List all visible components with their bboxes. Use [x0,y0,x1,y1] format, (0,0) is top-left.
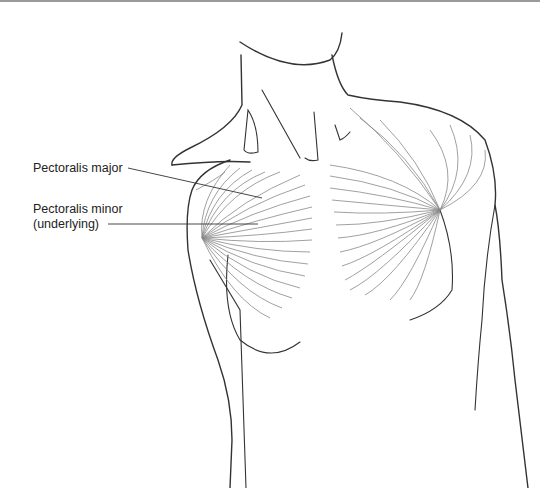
anatomy-figure: Pectoralis major Pectoralis minor (under… [0,0,552,488]
label-underlying: (underlying) [33,217,99,231]
pect-major-leader [128,168,262,198]
label-pectoralis-major: Pectoralis major [33,161,123,175]
label-pectoralis-minor: Pectoralis minor [33,202,123,216]
jaw-outline [240,33,342,65]
torso-illustration [0,0,552,488]
